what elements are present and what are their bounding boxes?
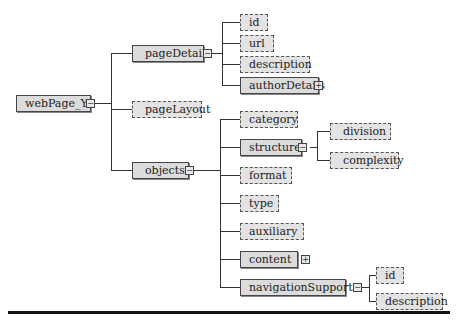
node-label: description [249, 58, 312, 71]
connector [111, 53, 132, 54]
connector [212, 53, 222, 54]
connector [317, 131, 330, 132]
expand-icon[interactable]: + [301, 255, 310, 264]
node-objects[interactable]: objects [132, 162, 189, 179]
connector [222, 22, 240, 23]
connector [222, 64, 240, 65]
node-structure[interactable]: structure [240, 139, 302, 156]
collapse-icon[interactable]: − [185, 166, 194, 175]
connector [220, 259, 240, 260]
node-label: id [249, 16, 260, 29]
connector [95, 103, 111, 104]
connector [310, 147, 317, 148]
node-authorDetails[interactable]: authorDetails [240, 77, 319, 94]
node-label: pageDetails [145, 47, 211, 60]
collapse-icon[interactable]: − [203, 49, 212, 58]
connector [220, 119, 240, 120]
node-label: auxiliary [249, 225, 297, 238]
node-label: navigationSupport [249, 281, 353, 294]
connector [194, 170, 220, 171]
node-content[interactable]: content [240, 251, 298, 268]
connector [222, 85, 240, 86]
collapse-icon[interactable]: − [298, 143, 307, 152]
node-division[interactable]: division [330, 123, 391, 140]
connector [220, 231, 240, 232]
node-pageLayout[interactable]: pageLayout [132, 101, 202, 118]
node-label: category [249, 113, 298, 126]
node-label: url [249, 37, 265, 50]
expand-icon[interactable]: + [314, 81, 323, 90]
connector [220, 175, 240, 176]
connector [369, 275, 376, 276]
node-pageDetails[interactable]: pageDetails [132, 45, 204, 62]
node-nav-id[interactable]: id [376, 267, 404, 284]
connector [111, 109, 132, 110]
node-label: type [249, 197, 273, 210]
collapse-icon[interactable]: − [353, 283, 362, 292]
connector [369, 275, 370, 301]
node-label: webPage_Y [25, 97, 88, 110]
connector [220, 147, 240, 148]
node-label: complexity [343, 154, 404, 167]
connector [111, 170, 132, 171]
node-complexity[interactable]: complexity [330, 152, 399, 169]
node-id[interactable]: id [240, 14, 268, 31]
node-format[interactable]: format [240, 167, 292, 184]
node-label: pageLayout [145, 103, 210, 116]
connector [317, 160, 330, 161]
node-label: structure [249, 141, 301, 154]
bottom-rule [8, 311, 450, 314]
node-nav-description[interactable]: description [376, 293, 443, 310]
connector [220, 203, 240, 204]
collapse-icon[interactable]: − [86, 99, 95, 108]
connector [111, 53, 112, 170]
node-category[interactable]: category [240, 111, 298, 128]
node-type[interactable]: type [240, 195, 279, 212]
connector [222, 43, 240, 44]
connector [220, 287, 240, 288]
node-webPage_Y[interactable]: webPage_Y [16, 95, 91, 112]
node-auxiliary[interactable]: auxiliary [240, 223, 304, 240]
connector [362, 287, 369, 288]
node-label: format [249, 169, 286, 182]
node-label: division [343, 125, 386, 138]
node-url[interactable]: url [240, 35, 274, 52]
connector [317, 131, 318, 160]
node-label: content [249, 253, 291, 266]
connector [369, 301, 376, 302]
node-label: id [385, 269, 396, 282]
node-description[interactable]: description [240, 56, 310, 73]
node-navigationSupport[interactable]: navigationSupport [240, 279, 346, 296]
connector [222, 22, 223, 85]
node-label: description [385, 295, 448, 308]
node-label: objects [145, 164, 185, 177]
